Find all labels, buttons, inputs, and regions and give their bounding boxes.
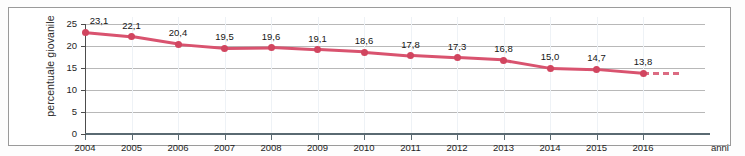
data-point-label: 17,3 [437, 41, 477, 52]
y-tick-label: 15 [55, 62, 77, 73]
x-tick-mark [225, 135, 226, 140]
data-point-label: 15,0 [530, 51, 570, 62]
chart-frame: percentuale giovanile anni 0510152025200… [8, 7, 731, 146]
x-axis-label: anni [711, 142, 729, 153]
data-point-marker [640, 70, 647, 77]
data-point-label: 19,5 [205, 31, 245, 42]
x-tick-label: 2011 [391, 142, 431, 153]
data-point-label: 13,8 [623, 56, 663, 67]
y-tick-label: 5 [55, 106, 77, 117]
x-tick-label: 2008 [251, 142, 291, 153]
data-point-marker [454, 54, 461, 61]
data-point-marker [82, 29, 89, 36]
gridline-vertical [550, 17, 551, 134]
data-point-label: 16,8 [484, 43, 524, 54]
x-tick-mark [178, 135, 179, 140]
x-tick-label: 2004 [65, 142, 105, 153]
gridline-vertical [457, 17, 458, 134]
gridline-vertical [504, 17, 505, 134]
y-tick-label: 20 [55, 40, 77, 51]
x-tick-mark [411, 135, 412, 140]
x-tick-label: 2005 [112, 142, 152, 153]
data-point-marker [268, 44, 275, 51]
x-tick-mark [364, 135, 365, 140]
x-tick-mark [504, 135, 505, 140]
x-tick-label: 2015 [577, 142, 617, 153]
data-point-label: 20,4 [158, 27, 198, 38]
data-point-marker [175, 41, 182, 48]
projection-dashed-line [643, 72, 679, 75]
x-tick-mark [457, 135, 458, 140]
x-tick-mark [318, 135, 319, 140]
data-point-label: 17,8 [391, 39, 431, 50]
series-line-segment [224, 46, 271, 49]
x-tick-label: 2010 [344, 142, 384, 153]
y-tick-label: 10 [55, 84, 77, 95]
y-tick-mark [81, 68, 86, 69]
y-tick-label: 0 [55, 128, 77, 139]
x-tick-label: 2006 [158, 142, 198, 153]
data-point-label: 19,6 [251, 31, 291, 42]
series-line-segment [550, 67, 597, 71]
x-tick-mark [643, 135, 644, 140]
x-tick-mark [85, 135, 86, 140]
data-point-label: 14,7 [577, 52, 617, 63]
data-point-marker [547, 65, 554, 72]
gridline-vertical [597, 17, 598, 134]
x-tick-mark [271, 135, 272, 140]
chart-figure: percentuale giovanile anni 0510152025200… [0, 0, 745, 156]
x-tick-label: 2007 [205, 142, 245, 153]
x-tick-label: 2014 [530, 142, 570, 153]
x-tick-label: 2013 [484, 142, 524, 153]
y-tick-mark [81, 46, 86, 47]
data-point-label: 22,1 [112, 20, 152, 31]
data-point-label: 19,1 [298, 33, 338, 44]
gridline-vertical [411, 17, 412, 134]
data-point-marker [593, 66, 600, 73]
data-point-label: 18,6 [344, 35, 384, 46]
x-tick-mark [132, 135, 133, 140]
y-tick-mark [81, 112, 86, 113]
x-tick-mark [550, 135, 551, 140]
x-tick-label: 2009 [298, 142, 338, 153]
x-tick-label: 2016 [623, 142, 663, 153]
data-point-marker [221, 45, 228, 52]
data-point-marker [500, 57, 507, 64]
x-tick-label: 2012 [437, 142, 477, 153]
y-tick-mark [81, 90, 86, 91]
y-tick-label: 25 [55, 18, 77, 29]
data-point-marker [361, 49, 368, 56]
x-tick-mark [597, 135, 598, 140]
y-axis-line [85, 24, 86, 134]
